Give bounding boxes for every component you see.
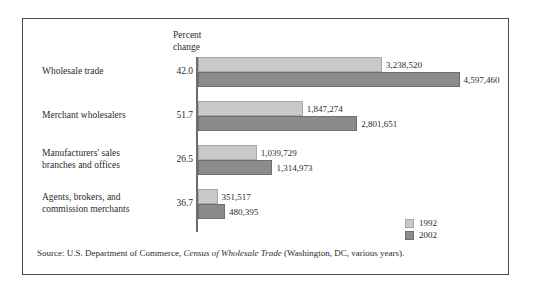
- legend-item-2002: 2002: [405, 229, 437, 241]
- legend-label-2002: 2002: [419, 229, 437, 241]
- legend-swatch-2002: [405, 231, 414, 240]
- legend-label-1992: 1992: [419, 217, 437, 229]
- source-note-title: Census of Wholesale Trade: [183, 248, 281, 258]
- bar-1992: [198, 57, 383, 72]
- legend-item-1992: 1992: [405, 217, 437, 229]
- bar-value-label: 1,039,729: [261, 148, 297, 158]
- percent-change-heading-line2: change: [173, 42, 243, 54]
- bar-2002: [198, 204, 225, 219]
- bar-2002: [198, 72, 460, 87]
- bar-value-label: 1,847,274: [307, 104, 343, 114]
- percent-change-heading: Percent change: [173, 30, 243, 53]
- plot-area: Wholesale trade42.03,238,5204,597,460Mer…: [23, 57, 510, 237]
- bar-1992: [198, 101, 303, 116]
- source-note-prefix: Source: U.S. Department of Commerce,: [37, 248, 183, 258]
- bar-value-label: 480,395: [229, 207, 258, 217]
- bar-2002: [198, 116, 358, 131]
- bar-1992: [198, 189, 218, 204]
- bar-value-label: 2,801,651: [361, 119, 397, 129]
- legend: 19922002: [405, 217, 437, 241]
- percent-change-value: 26.5: [163, 154, 193, 164]
- percent-change-heading-line1: Percent: [173, 30, 243, 42]
- percent-change-value: 51.7: [163, 110, 193, 120]
- percent-change-value: 36.7: [163, 198, 193, 208]
- legend-swatch-1992: [405, 219, 414, 228]
- bar-value-label: 1,314,973: [276, 163, 312, 173]
- bar-value-label: 4,597,460: [464, 75, 500, 85]
- source-note: Source: U.S. Department of Commerce, Cen…: [37, 247, 497, 259]
- percent-change-value: 42.0: [163, 66, 193, 76]
- bar-value-label: 351,517: [222, 192, 251, 202]
- bar-2002: [198, 160, 273, 175]
- bar-value-label: 3,238,520: [386, 60, 422, 70]
- figure-frame: Percent change Wholesale trade42.03,238,…: [22, 18, 509, 275]
- bar-1992: [198, 145, 257, 160]
- source-note-suffix: (Washington, DC, various years).: [282, 248, 405, 258]
